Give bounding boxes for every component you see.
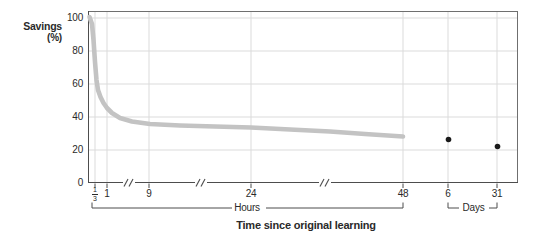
y-tick-label-60: 60	[0, 78, 83, 90]
y-tick-label-80: 80	[0, 45, 83, 57]
x-tick-label-48: 48	[388, 188, 418, 200]
y-tick-label-40: 40	[0, 111, 83, 123]
days-axis-group-label: Days	[457, 202, 490, 214]
forgetting-curve-figure: 02040608010013192448631 Savings (%) Hour…	[0, 0, 536, 236]
forgetting-curve-line	[90, 17, 404, 137]
hours-axis-group-label: Hours	[230, 202, 264, 214]
x-tick-label-24: 24	[236, 188, 266, 200]
data-point-6-days	[446, 137, 452, 143]
data-point-31-days	[495, 144, 501, 150]
x-tick-label-6: 6	[433, 188, 463, 200]
y-axis-title-line2: (%)	[0, 32, 62, 44]
x-axis-title: Time since original learning	[156, 219, 456, 232]
x-tick-label-1: 1	[92, 188, 122, 200]
y-tick-label-20: 20	[0, 144, 83, 156]
x-tick-label-31: 31	[482, 188, 512, 200]
y-axis-title-line1: Savings	[0, 20, 62, 32]
x-tick-label-9: 9	[134, 188, 164, 200]
y-axis-title: Savings (%)	[0, 20, 62, 44]
y-tick-label-0: 0	[0, 177, 83, 189]
plot-frame	[89, 12, 518, 183]
